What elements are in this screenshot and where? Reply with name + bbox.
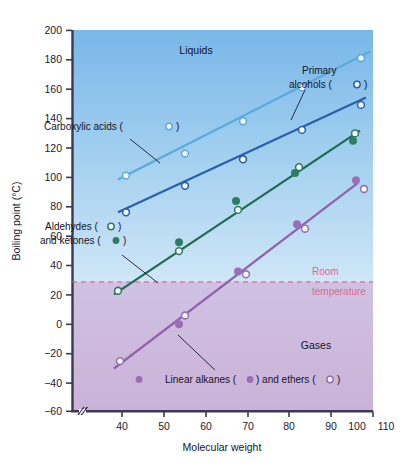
data-point — [175, 238, 183, 246]
series-label-ald-line2-close: ) — [123, 235, 126, 246]
chart-figure: 200 180 160 140 120 100 80 60 40 20 0 −2… — [0, 0, 403, 465]
series-label-carboxylic-close: ) — [176, 121, 179, 132]
region-label-gases: Gases — [301, 339, 331, 351]
series-label-primary-close: ) — [364, 79, 367, 90]
x-tick-70: 70 — [242, 420, 254, 432]
boiling-point-vs-molecular-weight-chart: 200 180 160 140 120 100 80 60 40 20 0 −2… — [0, 0, 403, 465]
series-label-primary-line1: Primary — [302, 65, 336, 76]
x-axis-tick-labels: 40 50 60 70 80 90 100 110 — [116, 420, 394, 432]
data-point — [240, 118, 247, 125]
data-point — [293, 220, 301, 228]
data-point — [115, 287, 122, 294]
room-temperature-label-line1: Room — [312, 266, 339, 277]
filled-circle-icon — [136, 376, 143, 383]
data-point — [302, 225, 309, 232]
y-tick-neg40: −40 — [44, 377, 62, 389]
series-label-primary-line2: alcohols ( — [289, 79, 332, 90]
y-tick-160: 160 — [44, 83, 62, 95]
series-label-ald-line1-close: ) — [118, 221, 121, 232]
data-point — [175, 320, 183, 328]
data-point — [235, 207, 242, 214]
data-point — [352, 130, 359, 137]
data-point — [234, 267, 242, 275]
data-point — [123, 209, 130, 216]
y-tick-200: 200 — [44, 24, 62, 36]
x-tick-50: 50 — [158, 420, 170, 432]
y-tick-neg60: −60 — [44, 405, 62, 417]
data-point — [182, 150, 189, 157]
y-tick-neg20: −20 — [44, 347, 62, 359]
data-point — [352, 176, 360, 184]
series-label-ald-line1: Aldehydes ( — [45, 221, 98, 232]
x-tick-110: 110 — [378, 420, 395, 432]
data-point — [123, 172, 130, 179]
filled-circle-icon — [113, 237, 120, 244]
data-point — [232, 197, 240, 205]
data-point — [291, 169, 299, 177]
y-tick-120: 120 — [44, 142, 62, 154]
y-tick-0: 0 — [56, 318, 62, 330]
open-circle-icon — [354, 81, 360, 87]
series-label-alkane-text2: ) and ethers ( — [256, 374, 316, 385]
data-point — [182, 312, 189, 319]
x-tick-60: 60 — [200, 420, 212, 432]
data-point — [182, 182, 189, 189]
x-tick-40: 40 — [116, 420, 128, 432]
x-axis-title: Molecular weight — [183, 441, 262, 453]
y-tick-20: 20 — [50, 289, 62, 301]
open-circle-icon — [166, 123, 172, 129]
data-point — [243, 271, 250, 278]
x-tick-100: 100 — [348, 420, 366, 432]
data-point — [299, 126, 306, 133]
series-label-alkane-text1: Linear alkanes ( — [165, 374, 237, 385]
y-tick-40: 40 — [50, 259, 62, 271]
data-point — [358, 55, 365, 62]
y-tick-180: 180 — [44, 53, 62, 65]
data-point — [240, 156, 247, 163]
open-circle-icon — [108, 223, 114, 229]
y-axis-title: Boiling point (°C) — [10, 182, 22, 261]
open-circle-icon — [327, 376, 333, 382]
series-label-carboxylic-text: Carboxylic acids ( — [44, 121, 124, 132]
region-label-liquids: Liquids — [179, 44, 212, 56]
data-point — [349, 137, 357, 145]
y-tick-80: 80 — [50, 200, 62, 212]
x-tick-90: 90 — [325, 420, 337, 432]
series-label-alkane-close: ) — [337, 374, 340, 385]
data-point — [176, 248, 183, 255]
series-label-ald-line2: and ketones ( — [40, 235, 101, 246]
data-point — [361, 186, 368, 193]
x-tick-80: 80 — [283, 420, 295, 432]
y-tick-100: 100 — [44, 171, 62, 183]
room-temperature-label-line2: temperature — [312, 286, 366, 297]
data-point — [117, 358, 124, 365]
data-point — [358, 102, 365, 109]
filled-circle-icon — [247, 376, 254, 383]
